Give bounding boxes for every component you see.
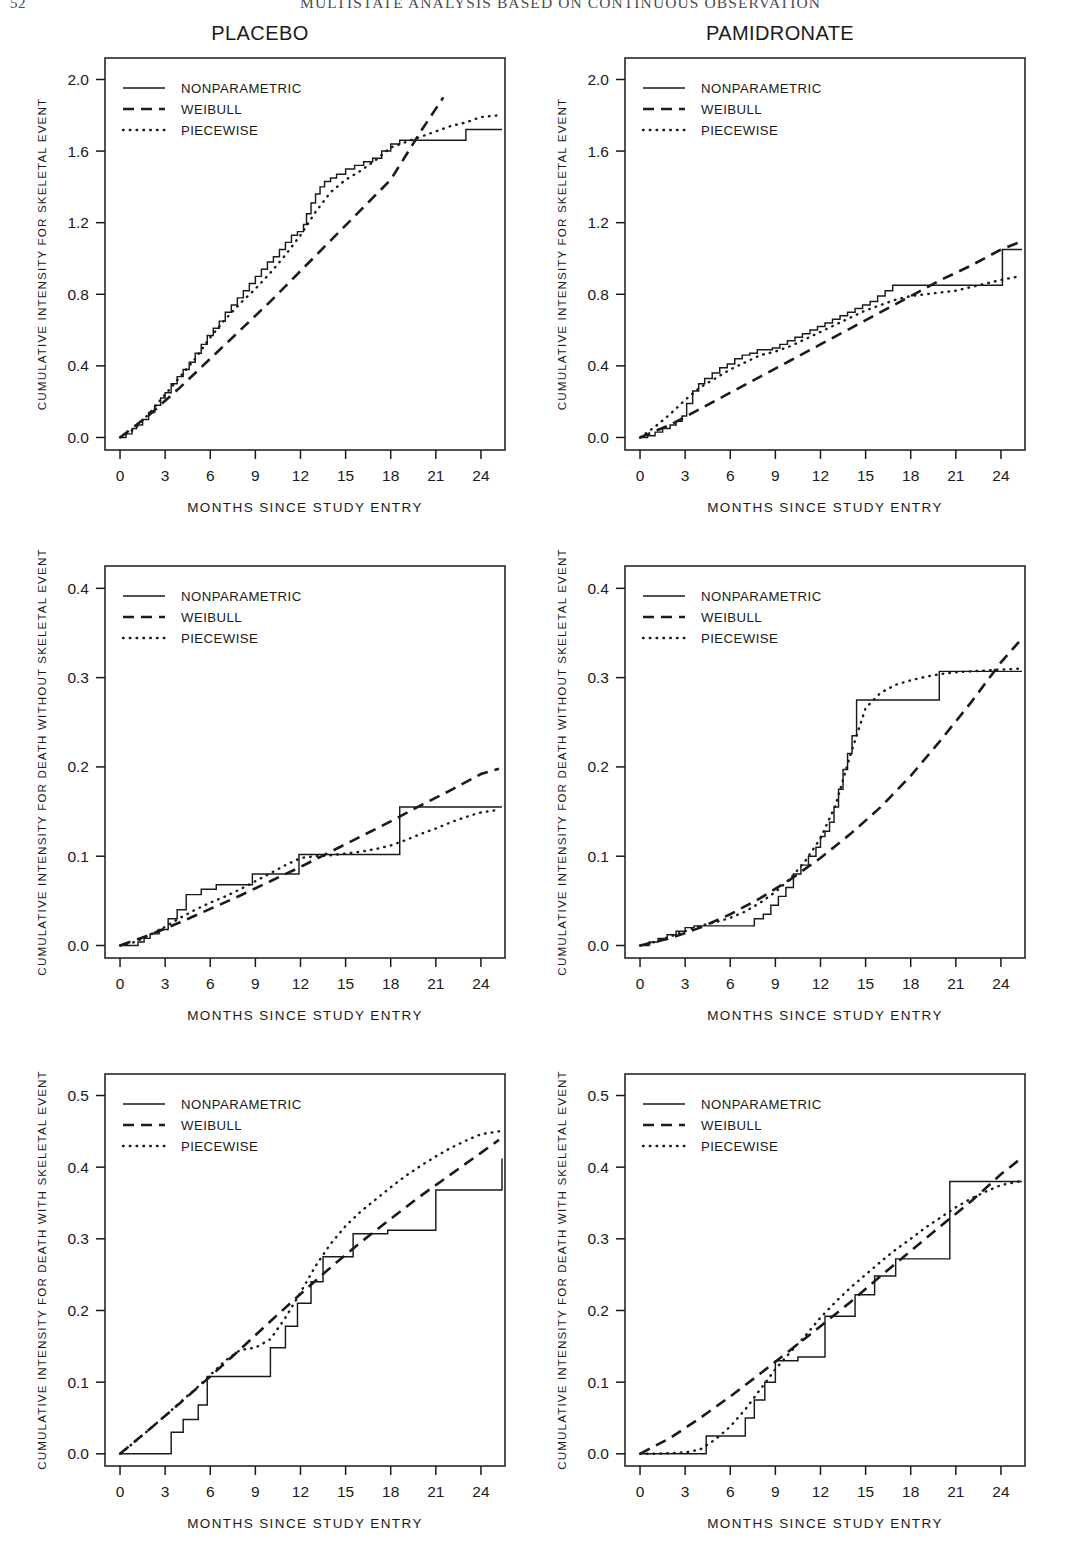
legend-label: NONPARAMETRIC: [181, 1097, 302, 1112]
x-axis-title: MONTHS SINCE STUDY ENTRY: [187, 1516, 423, 1531]
y-tick-label: 0.0: [587, 1445, 609, 1462]
plot-frame: [105, 58, 505, 450]
x-tick-label: 9: [251, 467, 260, 484]
y-axis-title: CUMULATIVE INTENSITY FOR DEATH WITH SKEL…: [35, 1070, 48, 1470]
x-tick-label: 0: [116, 975, 125, 992]
x-tick-label: 6: [726, 1483, 735, 1500]
series-dashed: [120, 1140, 499, 1454]
legend-entry-solid: NONPARAMETRIC: [643, 1097, 822, 1112]
y-tick-label: 0.3: [67, 1230, 89, 1247]
x-tick-label: 15: [337, 975, 354, 992]
legend-label: WEIBULL: [701, 610, 762, 625]
y-tick-label: 0.8: [67, 286, 89, 303]
x-tick-label: 18: [382, 975, 399, 992]
x-tick-label: 6: [726, 467, 735, 484]
y-tick-label: 0.4: [67, 1159, 89, 1176]
x-tick-label: 15: [337, 467, 354, 484]
y-axis-title: CUMULATIVE INTENSITY FOR SKELETAL EVENT: [35, 98, 48, 410]
x-tick-label: 18: [902, 1483, 919, 1500]
y-tick-label: 1.2: [67, 214, 89, 231]
y-tick-label: 1.2: [587, 214, 609, 231]
x-tick-label: 21: [427, 467, 444, 484]
legend-label: NONPARAMETRIC: [701, 1097, 822, 1112]
x-tick-label: 15: [857, 975, 874, 992]
legend-entry-solid: NONPARAMETRIC: [123, 1097, 302, 1112]
y-tick-label: 0.1: [587, 1374, 609, 1391]
panel-placebo-death-with: PLACEBO 036912151821240.00.10.20.30.40.5…: [0, 1030, 520, 1540]
legend-entry-dashed: WEIBULL: [643, 610, 762, 625]
plot-frame: [625, 58, 1025, 450]
x-axis-title: MONTHS SINCE STUDY ENTRY: [707, 1516, 943, 1531]
x-axis-title: MONTHS SINCE STUDY ENTRY: [187, 500, 423, 515]
y-tick-label: 0.4: [587, 580, 609, 597]
y-tick-label: 0.2: [587, 1302, 609, 1319]
legend-label: NONPARAMETRIC: [181, 81, 302, 96]
y-tick-label: 2.0: [587, 71, 609, 88]
y-tick-label: 0.1: [67, 1374, 89, 1391]
y-axis-title: CUMULATIVE INTENSITY FOR SKELETAL EVENT: [555, 98, 568, 410]
x-tick-label: 15: [337, 1483, 354, 1500]
x-tick-label: 6: [726, 975, 735, 992]
series-dotted: [640, 1181, 1019, 1453]
y-tick-label: 0.2: [67, 758, 89, 775]
x-tick-label: 6: [206, 975, 215, 992]
plot-placebo-death-with: 036912151821240.00.10.20.30.40.5MONTHS S…: [0, 1030, 520, 1540]
legend-label: PIECEWISE: [701, 631, 778, 646]
panel-placebo-skeletal: PLACEBO 036912151821240.00.40.81.21.62.0…: [0, 14, 520, 524]
x-tick-label: 24: [992, 975, 1010, 992]
x-tick-label: 12: [292, 975, 309, 992]
x-tick-label: 0: [116, 467, 125, 484]
x-axis-title: MONTHS SINCE STUDY ENTRY: [707, 500, 943, 515]
y-tick-label: 0.4: [67, 357, 89, 374]
plot-placebo-skeletal: 036912151821240.00.40.81.21.62.0MONTHS S…: [0, 14, 520, 524]
running-header: 52 MULTISTATE ANALYSIS BASED ON CONTINUO…: [0, 0, 1067, 14]
y-tick-label: 0.1: [587, 848, 609, 865]
legend-entry-dotted: PIECEWISE: [643, 1139, 778, 1154]
x-tick-label: 6: [206, 1483, 215, 1500]
x-tick-label: 0: [116, 1483, 125, 1500]
legend-label: WEIBULL: [701, 102, 762, 117]
x-tick-label: 21: [947, 467, 964, 484]
y-tick-label: 0.5: [587, 1087, 609, 1104]
running-head-title: MULTISTATE ANALYSIS BASED ON CONTINUOUS …: [300, 0, 821, 12]
x-tick-label: 15: [857, 467, 874, 484]
legend-entry-solid: NONPARAMETRIC: [643, 81, 822, 96]
plot-pamidronate-death-without: 036912151821240.00.10.20.30.4MONTHS SINC…: [520, 522, 1040, 1032]
y-axis-title: CUMULATIVE INTENSITY FOR DEATH WITH SKEL…: [555, 1070, 568, 1470]
y-axis-title: CUMULATIVE INTENSITY FOR DEATH WITHOUT S…: [35, 548, 48, 975]
series-dashed: [640, 642, 1019, 946]
x-tick-label: 24: [992, 1483, 1010, 1500]
legend-label: PIECEWISE: [701, 1139, 778, 1154]
y-tick-label: 0.3: [67, 669, 89, 686]
y-tick-label: 0.0: [67, 1445, 89, 1462]
x-tick-label: 18: [382, 467, 399, 484]
y-tick-label: 0.3: [587, 669, 609, 686]
y-tick-label: 0.0: [67, 937, 89, 954]
panel-pamidronate-death-without: PAMIDRONATE 036912151821240.00.10.20.30.…: [520, 522, 1040, 1032]
y-tick-label: 0.3: [587, 1230, 609, 1247]
x-tick-label: 12: [812, 467, 829, 484]
x-tick-label: 24: [992, 467, 1010, 484]
x-tick-label: 3: [161, 467, 170, 484]
x-tick-label: 3: [681, 1483, 690, 1500]
x-tick-label: 0: [636, 1483, 645, 1500]
y-tick-label: 0.0: [587, 937, 609, 954]
y-tick-label: 0.1: [67, 848, 89, 865]
plot-pamidronate-skeletal: 036912151821240.00.40.81.21.62.0MONTHS S…: [520, 14, 1040, 524]
legend-label: PIECEWISE: [181, 631, 258, 646]
x-tick-label: 21: [947, 975, 964, 992]
legend-entry-dotted: PIECEWISE: [123, 1139, 258, 1154]
panel-pamidronate-death-with: PAMIDRONATE 036912151821240.00.10.20.30.…: [520, 1030, 1040, 1540]
x-tick-label: 0: [636, 975, 645, 992]
y-tick-label: 0.2: [67, 1302, 89, 1319]
legend-label: PIECEWISE: [701, 123, 778, 138]
y-tick-label: 0.8: [587, 286, 609, 303]
x-tick-label: 18: [902, 467, 919, 484]
legend-label: NONPARAMETRIC: [701, 81, 822, 96]
x-tick-label: 24: [472, 975, 490, 992]
series-solid: [120, 1159, 502, 1454]
x-tick-label: 24: [472, 467, 490, 484]
panel-pamidronate-skeletal: PAMIDRONATE 036912151821240.00.40.81.21.…: [520, 14, 1040, 524]
y-tick-label: 1.6: [587, 143, 609, 160]
legend-label: NONPARAMETRIC: [181, 589, 302, 604]
